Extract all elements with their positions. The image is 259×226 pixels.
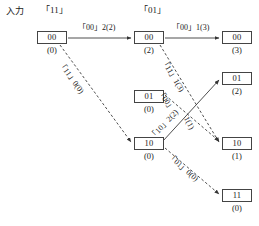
state-node-metric: (1): [222, 150, 252, 162]
state-node-metric: (3): [222, 44, 252, 56]
input-label: 入力: [6, 6, 24, 17]
state-node-metric: (2): [222, 85, 252, 97]
edge-label: 「00」2(2): [78, 23, 115, 32]
state-node-label: 10: [222, 137, 252, 150]
stage2-label: 「01」: [139, 5, 166, 16]
state-node[interactable]: 00(3): [222, 31, 252, 56]
state-node-metric: (0): [134, 103, 164, 115]
state-node-label: 00: [222, 31, 252, 44]
state-node-metric: (0): [134, 150, 164, 162]
state-node-label: 00: [37, 31, 67, 44]
state-node-label: 11: [222, 189, 252, 202]
state-node-label: 01: [222, 72, 252, 85]
state-node[interactable]: 00(2): [134, 31, 164, 56]
state-node[interactable]: 00(0): [37, 31, 67, 56]
state-node-label: 00: [134, 31, 164, 44]
edge-label: 「00」1(3): [172, 23, 209, 32]
edge-label: 1(1): [182, 115, 196, 131]
state-node-metric: (0): [37, 44, 67, 56]
state-node[interactable]: 11(0): [222, 189, 252, 214]
state-node-metric: (2): [134, 44, 164, 56]
edge-label: 「01」0(0): [166, 152, 200, 183]
state-node[interactable]: 01(2): [222, 72, 252, 97]
trellis-edge-dashed[interactable]: [60, 45, 131, 142]
state-node[interactable]: 10(0): [134, 137, 164, 162]
stage1-label: 「11」: [41, 5, 68, 16]
edge-label: 「11」0(0): [57, 60, 86, 95]
state-node-label: 10: [134, 137, 164, 150]
state-node-metric: (0): [222, 202, 252, 214]
trellis-diagram: 入力「11」「01」 00(0)00(2)01(0)10(0)00(3)01(2…: [0, 0, 259, 226]
state-node[interactable]: 10(1): [222, 137, 252, 162]
